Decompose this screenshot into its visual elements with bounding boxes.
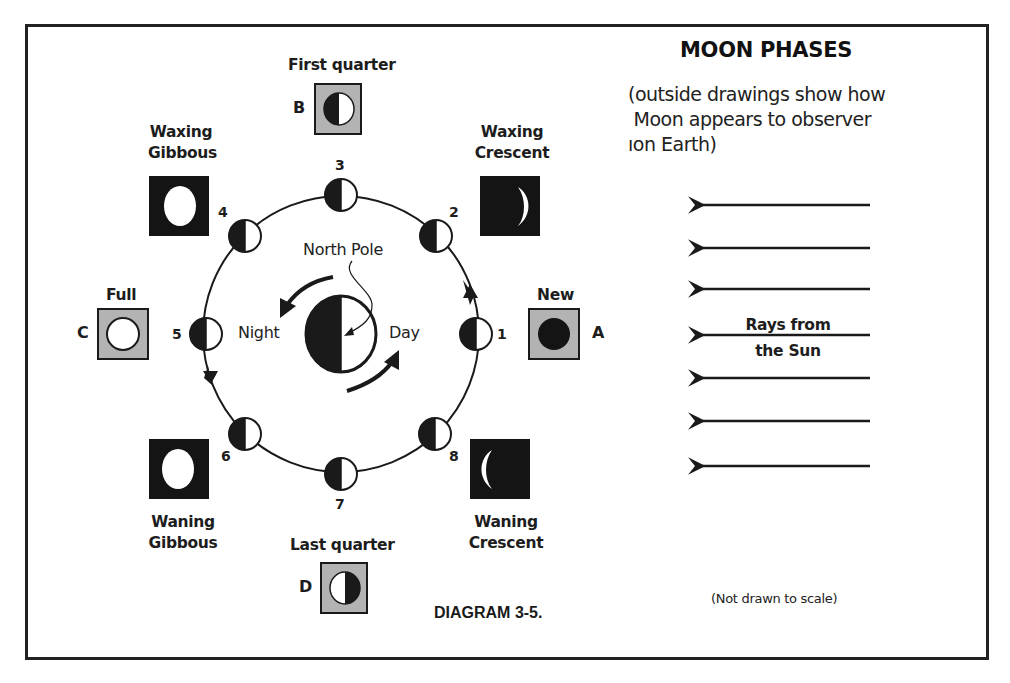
subtitle-line-2: Moon appears to observer [628, 108, 871, 130]
phase-box-new [529, 309, 579, 359]
label-waxing-crescent: WaxingCrescent [474, 122, 550, 164]
diagram-title: MOON PHASES [680, 38, 852, 62]
orbit-number-8: 8 [449, 448, 459, 464]
label-last-quarter: Last quarter [290, 535, 395, 556]
diagram-caption: DIAGRAM 3-5. [434, 604, 542, 622]
scale-note: (Not drawn to scale) [711, 591, 837, 606]
night-label: Night [238, 323, 280, 342]
orbit-number-1: 1 [497, 326, 507, 342]
orbit-number-6: 6 [221, 448, 231, 464]
diagram-subtitle: (outside drawings show how Moon appears … [628, 82, 885, 157]
phase-box-full [98, 309, 148, 359]
orbit-number-3: 3 [335, 157, 345, 173]
label-new: New [537, 285, 574, 306]
phase-box-last-quarter [321, 563, 367, 613]
sun-rays-label: Rays fromthe Sun [738, 312, 838, 364]
phase-box-waxing-crescent [480, 176, 540, 236]
orbit-number-4: 4 [218, 204, 228, 220]
label-waning-crescent: WaningCrescent [466, 512, 546, 554]
phase-box-first-quarter [315, 84, 361, 134]
orbit-moon-7 [325, 458, 357, 490]
earth-icon [306, 296, 376, 372]
orbit-moon-3 [325, 179, 357, 211]
north-pole-label: North Pole [303, 240, 383, 259]
letter-b: B [293, 98, 305, 117]
subtitle-line-3: ıon Earth) [628, 133, 716, 155]
subtitle-line-1: (outside drawings show how [628, 83, 885, 105]
orbit-moon-6 [229, 418, 261, 450]
phase-box-waning-crescent [470, 439, 530, 499]
label-first-quarter: First quarter [288, 55, 395, 76]
letter-c: C [77, 323, 89, 342]
orbit-moon-4 [229, 220, 261, 252]
orbit-number-5: 5 [172, 326, 182, 342]
orbit-number-7: 7 [335, 496, 345, 512]
rays-label-line-2: the Sun [755, 342, 821, 360]
letter-d: D [299, 577, 312, 596]
orbit-moon-1 [460, 318, 492, 350]
day-label: Day [389, 323, 420, 342]
label-line-2: Gibbous [148, 144, 217, 162]
label-line-2: Crescent [469, 534, 544, 552]
label-line-1: Waning [151, 513, 215, 531]
label-line-1: Waning [474, 513, 538, 531]
orbit-moon-8 [419, 418, 451, 450]
label-line-2: Crescent [475, 144, 550, 162]
rays-label-line-1: Rays from [745, 316, 830, 334]
letter-a: A [592, 323, 604, 342]
label-full: Full [106, 285, 136, 306]
label-line-2: Gibbous [148, 534, 217, 552]
label-line-1: Waxing [481, 123, 544, 141]
phase-box-waning-gibbous [149, 439, 209, 499]
label-waxing-gibbous: WaxingGibbous [148, 122, 214, 164]
phase-box-waxing-gibbous [149, 176, 209, 236]
orbit-moon-2 [420, 220, 452, 252]
orbit-moon-5 [190, 318, 222, 350]
label-waning-gibbous: WaningGibbous [148, 512, 218, 554]
label-line-1: Waxing [150, 123, 213, 141]
orbit-number-2: 2 [449, 204, 459, 220]
